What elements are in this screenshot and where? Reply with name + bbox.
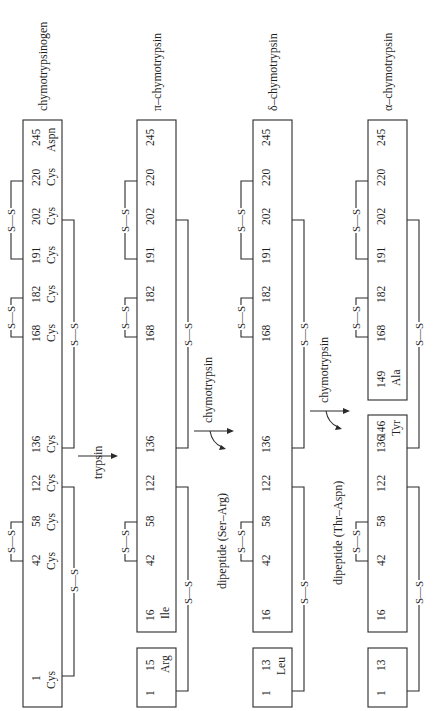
residue-number: 191 bbox=[260, 247, 272, 265]
enzyme-label: chymotrypsin bbox=[201, 357, 215, 423]
arrow-head-icon bbox=[227, 428, 234, 434]
residue-number: 149 bbox=[375, 371, 387, 389]
disulfide-label: S—S bbox=[119, 209, 131, 232]
arrow-head-icon bbox=[111, 453, 118, 459]
residue-number: 58 bbox=[260, 515, 272, 527]
residue-number: 122 bbox=[30, 475, 42, 493]
residue-number: 202 bbox=[30, 208, 42, 226]
residue-number: 1 bbox=[260, 690, 272, 696]
residue-name: Cys bbox=[45, 168, 58, 186]
residue-number: 42 bbox=[30, 554, 42, 566]
residue-number: 136 bbox=[260, 436, 272, 454]
disulfide-label: S—S bbox=[235, 209, 247, 232]
residue-name: Tyr bbox=[390, 420, 403, 436]
residue-name: Aspn bbox=[45, 127, 58, 152]
residue-number: 245 bbox=[260, 129, 272, 147]
residue-number: 245 bbox=[30, 129, 42, 147]
disulfide-label: S—S bbox=[413, 581, 425, 604]
residue-name: Cys bbox=[45, 552, 58, 570]
residue-number: 220 bbox=[144, 169, 156, 187]
disulfide-label: S—S bbox=[413, 323, 425, 346]
stage-pi-chymotrypsin: 1 15 Arg 16 Ile 42 58 122 136 168 182 19… bbox=[119, 33, 194, 707]
residue-number: 1 bbox=[30, 675, 42, 681]
residue-number: 16 bbox=[260, 609, 272, 621]
residue-number: 1 bbox=[375, 690, 387, 696]
disulfide-label: S—S bbox=[5, 209, 17, 232]
disulfide-label: S—S bbox=[68, 323, 80, 346]
disulfide-label: S—S bbox=[350, 530, 362, 553]
residue-name: Ile bbox=[159, 607, 171, 619]
disulfide-label: S—S bbox=[350, 306, 362, 329]
residue-number: 245 bbox=[375, 129, 387, 147]
disulfide-label: S—S bbox=[119, 530, 131, 553]
residue-number: 220 bbox=[260, 169, 272, 187]
residue-name: Cys bbox=[45, 324, 58, 342]
residue-number: 168 bbox=[375, 325, 387, 343]
residue-name: Cys bbox=[45, 671, 58, 689]
residue-number: 191 bbox=[30, 247, 42, 265]
step-chymotrypsin-1: chymotrypsin dipeptide (Ser–Arg) bbox=[194, 357, 234, 589]
residue-number: 122 bbox=[144, 475, 156, 493]
residue-name: Arg bbox=[159, 655, 172, 673]
enzyme-label: chymotrypsin bbox=[317, 337, 331, 403]
disulfide-label: S—S bbox=[350, 209, 362, 232]
residue-number: 191 bbox=[144, 247, 156, 265]
residue-number: 136 bbox=[144, 436, 156, 454]
stage-chymotrypsinogen: 1 Cys 42 Cys 58 Cys 122 Cys 136 Cys 168 … bbox=[5, 22, 80, 707]
disulfide-label: S—S bbox=[68, 569, 80, 592]
chymotrypsinogen-activation-diagram: 1 Cys 42 Cys 58 Cys 122 Cys 136 Cys 168 … bbox=[0, 0, 433, 711]
disulfide-label: S—S bbox=[298, 581, 310, 604]
residue-number: 42 bbox=[260, 554, 272, 566]
disulfide-label: S—S bbox=[182, 323, 194, 346]
disulfide-label: S—S bbox=[5, 306, 17, 329]
stage-label: chymotrypsinogen bbox=[36, 22, 50, 111]
disulfide-label: S—S bbox=[235, 530, 247, 553]
residue-number: 58 bbox=[30, 515, 42, 527]
residue-number: 182 bbox=[375, 286, 387, 304]
residue-number: 1 bbox=[144, 690, 156, 696]
residue-number: 202 bbox=[260, 208, 272, 226]
residue-name: Cys bbox=[45, 207, 58, 225]
residue-name: Cys bbox=[45, 474, 58, 492]
residue-number: 245 bbox=[144, 129, 156, 147]
residue-number: 220 bbox=[30, 169, 42, 187]
residue-number: 136 bbox=[375, 436, 387, 454]
residue-number: 122 bbox=[260, 475, 272, 493]
residue-number: 182 bbox=[30, 286, 42, 304]
disulfide-label: S—S bbox=[182, 581, 194, 604]
release-arrow-line bbox=[210, 431, 222, 447]
residue-number: 168 bbox=[260, 325, 272, 343]
residue-number: 220 bbox=[375, 169, 387, 187]
residue-name: Cys bbox=[45, 435, 58, 453]
residue-number: 13 bbox=[260, 659, 272, 671]
disulfide-label: S—S bbox=[298, 323, 310, 346]
residue-number: 136 bbox=[30, 436, 42, 454]
residue-number: 122 bbox=[375, 475, 387, 493]
residue-number: 42 bbox=[144, 554, 156, 566]
step-chymotrypsin-2: chymotrypsin dipeptide (Thr–Aspn) bbox=[310, 337, 350, 585]
step-trypsin: trypsin bbox=[78, 446, 118, 479]
residue-number: 58 bbox=[375, 515, 387, 527]
residue-number: 168 bbox=[30, 325, 42, 343]
residue-number: 182 bbox=[260, 286, 272, 304]
chain-box-b bbox=[253, 120, 292, 632]
residue-number: 16 bbox=[144, 609, 156, 621]
stage-delta-chymotrypsin: 1 13 Leu 16 42 58 122 136 168 182 191 20… bbox=[235, 33, 310, 707]
arrow-head-icon bbox=[343, 408, 350, 414]
stage-label: δ–chymotrypsin bbox=[266, 33, 280, 111]
residue-name: Cys bbox=[45, 246, 58, 264]
residue-name: Leu bbox=[275, 657, 287, 675]
enzyme-label: trypsin bbox=[91, 446, 105, 479]
residue-number: 146 bbox=[375, 421, 387, 439]
residue-number: 191 bbox=[375, 247, 387, 265]
disulfide-label: S—S bbox=[5, 530, 17, 553]
stage-label: π–chymotrypsin bbox=[150, 33, 164, 111]
residue-number: 202 bbox=[375, 208, 387, 226]
residue-number: 58 bbox=[144, 515, 156, 527]
residue-number: 15 bbox=[144, 659, 156, 671]
residue-name: Cys bbox=[45, 513, 58, 531]
residue-number: 168 bbox=[144, 325, 156, 343]
disulfide-label: S—S bbox=[119, 306, 131, 329]
release-arrow-line bbox=[326, 411, 338, 427]
stage-alpha-chymotrypsin: 1 13 16 42 58 122 136 146 Tyr 149 Ala 16… bbox=[350, 33, 425, 707]
